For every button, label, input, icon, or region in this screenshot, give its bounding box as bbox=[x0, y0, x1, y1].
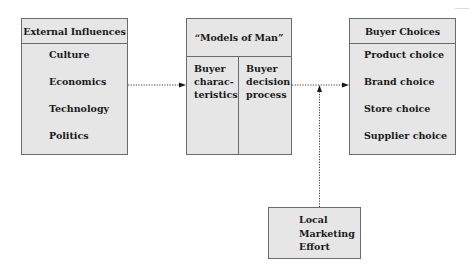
arrowhead-right-1 bbox=[179, 83, 186, 88]
corner-mark bbox=[455, 8, 469, 9]
connector-arrows bbox=[0, 0, 474, 266]
arrowhead-up bbox=[317, 85, 322, 92]
arrowhead-right-2 bbox=[342, 83, 349, 88]
